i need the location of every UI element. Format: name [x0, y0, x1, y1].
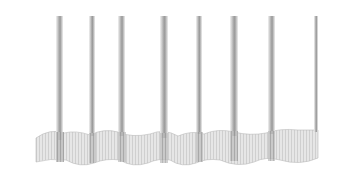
- curtain-hem: [36, 129, 318, 164]
- curtain-folds-graphic: [0, 0, 338, 179]
- drapery-illustration: [0, 0, 338, 179]
- fold-lines: [56, 16, 318, 140]
